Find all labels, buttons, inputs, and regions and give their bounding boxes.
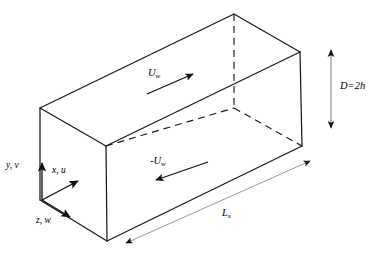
couette-flow-schematic-figure: y, v x, u z, w Uw -Uw D=2h Lx [0,0,382,258]
axis-label-x: x, u [52,166,66,176]
diagram-canvas [0,0,382,258]
edge-hidden-bottom-left-back [106,108,234,146]
box-solid-edges [40,14,302,241]
height-dimension-label: D=2h [340,81,365,92]
edge-top-front-left [40,108,106,146]
axis-label-z: z, w [36,216,51,226]
bottom-wall-velocity-subscript: w [161,160,166,168]
length-dimension-subscript: x [228,212,231,220]
bottom-wall-velocity-label: -Uw [150,156,166,168]
top-wall-velocity-subscript: w [156,72,161,80]
bottom-wall-velocity-base: -U [150,155,161,166]
edge-top-back-right [234,14,300,52]
length-dimension [126,161,310,243]
edge-vert-right [300,52,302,146]
length-dimension-label: Lx [222,208,231,220]
x-axis-arrow [42,181,78,200]
top-wall-velocity-base: U [148,67,156,78]
edge-top-left-back [40,14,234,108]
top-wall-velocity-label: Uw [148,68,160,80]
edge-bottom-front-right [107,146,302,241]
edge-top-right-front [106,52,300,146]
edge-hidden-bottom-back-right [234,108,302,146]
box-hidden-edges [106,14,302,146]
edge-vert-center-front [106,146,107,241]
length-dimension-arrow [126,161,310,243]
axis-label-y: y, v [6,161,19,171]
